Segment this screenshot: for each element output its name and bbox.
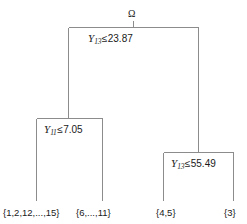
left-split-threshold: 7.05 <box>63 124 83 135</box>
leaf-node-label: {6,...,11} <box>76 208 111 218</box>
left-internal-split-label: Y11≤7.05 <box>44 124 83 137</box>
right-split-threshold: 55.49 <box>190 158 216 169</box>
leaf-node-label: {3} <box>224 208 236 218</box>
root-split-label: Y13≤23.87 <box>88 33 133 46</box>
root-node-symbol: Ω <box>128 9 135 19</box>
leaf-node-label: {1,2,12,...,15} <box>3 208 60 218</box>
left-split-subscript: 11 <box>50 128 57 137</box>
leaf-node-label: {4,5} <box>156 208 176 218</box>
root-split-threshold: 23.87 <box>107 33 133 44</box>
left-split-relation: ≤ <box>57 124 63 135</box>
right-internal-split-label: Y13≤55.49 <box>171 158 216 171</box>
decision-tree-figure: Ω Y13≤23.87 Y11≤7.05 Y13≤55.49 {1,2,12,.… <box>0 0 247 224</box>
